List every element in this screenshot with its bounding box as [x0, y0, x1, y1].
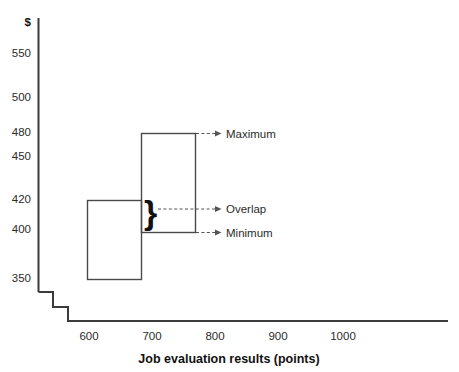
- x-tick-label-700: 700: [142, 330, 161, 342]
- annotation-label-maximum: Maximum: [226, 128, 276, 140]
- y-axis-unit-label: $: [25, 16, 32, 28]
- annotation-label-minimum: Minimum: [226, 227, 273, 239]
- chart-canvas: $ 550 500 480 450 420 400 350 600 700 80…: [0, 0, 459, 372]
- pay-grade-box-lower: [88, 201, 142, 280]
- y-tick-label-450: 450: [12, 150, 31, 162]
- y-tick-label-480: 480: [12, 126, 31, 138]
- overlap-arrowhead-icon: [215, 206, 222, 212]
- maximum-arrowhead-icon: [215, 131, 222, 137]
- overlap-brace-symbol: }: [144, 193, 157, 231]
- x-axis-line-with-break: [39, 292, 449, 321]
- x-tick-label-900: 900: [268, 330, 287, 342]
- salary-range-chart: $ 550 500 480 450 420 400 350 600 700 80…: [0, 0, 459, 372]
- y-tick-label-400: 400: [12, 223, 31, 235]
- y-tick-label-420: 420: [12, 193, 31, 205]
- x-tick-label-1000: 1000: [330, 330, 356, 342]
- minimum-arrowhead-icon: [215, 230, 222, 236]
- y-tick-label-550: 550: [12, 47, 31, 59]
- y-tick-label-500: 500: [12, 91, 31, 103]
- x-tick-label-600: 600: [79, 330, 98, 342]
- y-tick-label-350: 350: [12, 272, 31, 284]
- annotation-label-overlap: Overlap: [226, 203, 266, 215]
- x-axis-title: Job evaluation results (points): [138, 352, 319, 366]
- x-tick-label-800: 800: [205, 330, 224, 342]
